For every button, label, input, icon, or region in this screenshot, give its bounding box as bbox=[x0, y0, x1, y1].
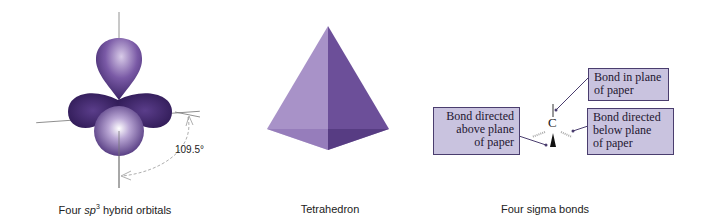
caption-suffix: hybrid orbitals bbox=[100, 204, 172, 216]
sigma-bonds-caption: Four sigma bonds bbox=[501, 203, 589, 215]
label-line: of paper bbox=[594, 84, 663, 97]
sigma-bonds-panel: C Bond in plane of paper Bond directed b… bbox=[420, 0, 705, 222]
caption-prefix: Four bbox=[59, 204, 85, 216]
caption-sp: sp bbox=[84, 204, 96, 216]
label-bond-above-plane: Bond directed above plane of paper bbox=[433, 107, 520, 155]
label-bond-in-plane: Bond in plane of paper bbox=[588, 68, 669, 101]
label-line: of paper bbox=[439, 136, 514, 149]
tetrahedron-panel: Tetrahedron bbox=[240, 0, 420, 222]
label-bond-below-plane: Bond directed below plane of paper bbox=[587, 108, 674, 155]
sp3-orbitals-figure bbox=[0, 0, 230, 222]
carbon-atom: C bbox=[548, 115, 557, 131]
orbitals-caption: Four sp3 hybrid orbitals bbox=[59, 203, 172, 216]
bond-angle-label: 109.5° bbox=[175, 144, 204, 155]
tetrahedron-figure bbox=[240, 0, 420, 222]
sp3-orbitals-panel: 109.5° Four sp3 hybrid orbitals bbox=[0, 0, 230, 222]
label-line: of paper bbox=[593, 137, 668, 150]
tetrahedron-caption: Tetrahedron bbox=[301, 203, 360, 215]
